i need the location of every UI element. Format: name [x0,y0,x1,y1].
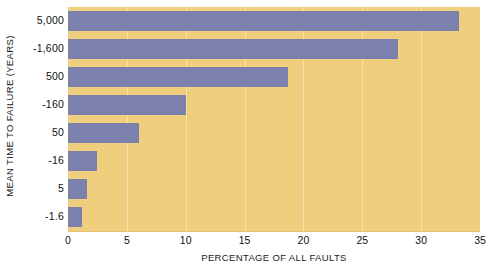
x-axis-tick-label: 30 [401,234,441,246]
y-axis-tick-label: 50 [14,126,64,138]
y-axis-tick-label: -1,600 [14,42,64,54]
bar [68,207,82,227]
bar [68,39,398,59]
x-axis-tick-labels: 05101520253035 [68,234,480,250]
bar [68,179,87,199]
bar [68,11,459,31]
bar [68,95,186,115]
gridline [421,7,422,231]
x-axis-tick-label: 0 [48,234,88,246]
y-axis-tick-labels: 5,000-1,600500-16050-165-1.6 [14,7,64,231]
bar [68,67,288,87]
x-axis-tick-label: 35 [460,234,498,246]
x-axis-tick-label: 25 [342,234,382,246]
x-axis-title: PERCENTAGE OF ALL FAULTS [68,252,480,263]
x-axis-tick-label: 20 [283,234,323,246]
x-axis-tick-label: 10 [166,234,206,246]
x-axis-tick-label: 15 [225,234,265,246]
bar [68,123,139,143]
bar [68,151,97,171]
x-axis-tick-label: 5 [107,234,147,246]
y-axis-tick-label: 5,000 [14,14,64,26]
y-axis-tick-label: -1.6 [14,210,64,222]
x-axis-line [68,231,480,232]
y-axis-tick-label: 500 [14,70,64,82]
y-axis-tick-label: -160 [14,98,64,110]
plot-area [68,7,480,231]
y-axis-tick-label: 5 [14,182,64,194]
bar-chart: MEAN TIME TO FAILURE (YEARS) 5,000-1,600… [0,0,498,279]
y-axis-tick-label: -16 [14,154,64,166]
